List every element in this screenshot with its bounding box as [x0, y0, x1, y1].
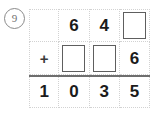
- cell-r1c3-digit: 4: [90, 9, 120, 42]
- second-addend-row: + 6: [29, 42, 150, 75]
- digit-value: 4: [99, 17, 108, 34]
- cell-r2c2-blank[interactable]: [59, 42, 89, 75]
- problem-number-badge: 9: [4, 8, 25, 29]
- cell-r1c1-empty: [29, 9, 59, 42]
- cell-r3c4-digit: 5: [120, 75, 150, 108]
- problem-number-label: 9: [12, 13, 18, 24]
- digit-value: 3: [99, 83, 108, 100]
- digit-value: 5: [130, 83, 139, 100]
- blank-answer-box[interactable]: [93, 45, 116, 72]
- cell-r2c1-operator: +: [29, 42, 59, 75]
- cell-r3c3-digit: 3: [90, 75, 120, 108]
- cell-r3c2-digit: 0: [59, 75, 89, 108]
- blank-answer-box[interactable]: [123, 12, 146, 39]
- sum-row: 1 0 3 5: [29, 75, 150, 108]
- cell-r1c2-digit: 6: [59, 9, 89, 42]
- blank-answer-box[interactable]: [62, 45, 85, 72]
- cell-r2c4-digit: 6: [120, 42, 150, 75]
- first-addend-row: 6 4: [29, 9, 150, 42]
- digit-value: 6: [130, 50, 139, 67]
- plus-icon: +: [40, 51, 49, 66]
- digit-value: 6: [69, 17, 78, 34]
- cell-r1c4-blank[interactable]: [120, 9, 150, 42]
- digit-value: 0: [69, 83, 78, 100]
- digit-value: 1: [39, 83, 48, 100]
- cell-r2c3-blank[interactable]: [90, 42, 120, 75]
- cell-r3c1-digit: 1: [29, 75, 59, 108]
- sum-rule-line: [29, 75, 150, 77]
- addition-problem-grid: 6 4 + 6 1 0 3: [29, 9, 150, 114]
